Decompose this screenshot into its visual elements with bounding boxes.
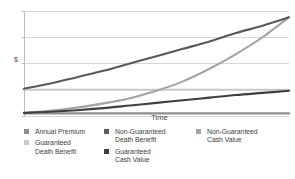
x-axis-label-wrap: Time: [0, 113, 295, 122]
legend-item[interactable]: Annual Premium: [24, 128, 106, 136]
legend-swatch-icon: [24, 140, 29, 145]
legend-item[interactable]: Non-Guaranteed Cash Value: [196, 128, 291, 145]
legend-label: Guaranteed Death Benefit: [35, 139, 106, 156]
legend-swatch-icon: [104, 129, 109, 134]
y-axis-label: $: [14, 56, 18, 64]
legend-column-2: Non-Guaranteed Death BenefitGuaranteed C…: [104, 128, 192, 168]
series-lines: [24, 17, 289, 113]
legend-item[interactable]: Guaranteed Cash Value: [104, 148, 192, 165]
legend-column-3: Non-Guaranteed Cash Value: [196, 128, 291, 148]
legend-label: Non-Guaranteed Death Benefit: [115, 128, 192, 145]
legend-item[interactable]: Non-Guaranteed Death Benefit: [104, 128, 192, 145]
chart-svg: [0, 0, 295, 124]
legend-label: Annual Premium: [35, 128, 106, 136]
chart-container: $ Time Annual PremiumGuaranteed Death Be…: [0, 0, 295, 179]
x-axis-label: Time: [127, 113, 167, 122]
legend-swatch-icon: [24, 129, 29, 134]
gridlines: [24, 11, 289, 116]
legend-swatch-icon: [196, 129, 201, 134]
series-line: [24, 17, 289, 88]
plot-area: $: [0, 0, 295, 124]
legend-swatch-icon: [104, 149, 109, 154]
chart-legend: Annual PremiumGuaranteed Death Benefit N…: [0, 128, 295, 179]
legend-column-1: Annual PremiumGuaranteed Death Benefit: [24, 128, 106, 159]
legend-label: Non-Guaranteed Cash Value: [207, 128, 291, 145]
legend-label: Guaranteed Cash Value: [115, 148, 192, 165]
axis-lines: [22, 11, 25, 116]
legend-item[interactable]: Guaranteed Death Benefit: [24, 139, 106, 156]
series-line: [24, 17, 289, 113]
